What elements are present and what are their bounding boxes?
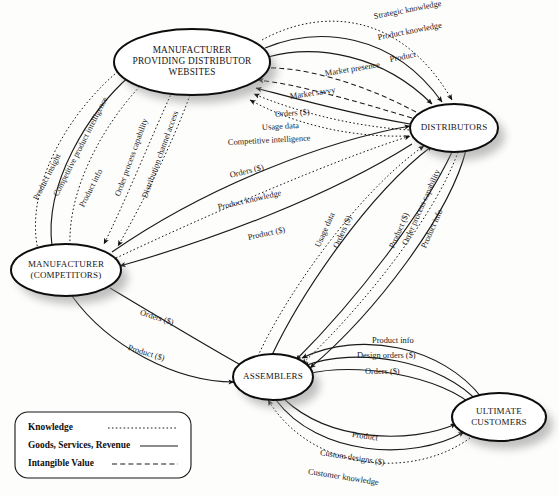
edge-label: Product ($)	[247, 225, 286, 242]
node-label-line: ASSEMBLERS	[243, 371, 303, 381]
edge-label: Product info	[77, 168, 104, 209]
node-label-line: PROVIDING DISTRIBUTOR	[133, 56, 253, 66]
edge-usage-data-assemblers	[258, 146, 424, 356]
node-label-line: CUSTOMERS	[471, 417, 527, 427]
edge-order-process-capability-mpdw	[104, 92, 172, 244]
legend-label-knowledge: Knowledge	[28, 422, 73, 432]
edge-label: Product ($)	[127, 343, 166, 363]
edge-custom-designs	[276, 400, 464, 450]
edge-product-assemblers-customers	[284, 399, 456, 436]
edge-product-distributors-competitors	[120, 144, 412, 266]
legend: Knowledge Goods, Services, Revenue Intan…	[15, 412, 191, 478]
edge-label: Customer knowledge	[307, 467, 379, 487]
edge-label: Product knowledge	[217, 188, 283, 211]
edge-label: Market presence	[324, 60, 381, 78]
edge-label: Order process capability	[400, 167, 442, 246]
node-customers[interactable]: ULTIMATECUSTOMERS	[452, 393, 553, 449]
edge-label: Product knowledge	[377, 21, 443, 42]
edge-product-info-competitors	[70, 80, 146, 245]
edge-label: Product info	[372, 336, 414, 345]
legend-label-goods: Goods, Services, Revenue	[28, 440, 130, 450]
edge-competitive-product-intelligence	[51, 74, 132, 246]
edge-label: Market savvy	[289, 85, 336, 100]
edge-product-competitors-assemblers	[72, 296, 234, 382]
edge-label: Design orders ($)	[357, 351, 416, 360]
edge-design-orders	[304, 357, 480, 404]
node-label-line: WEBSITES	[168, 67, 215, 77]
node-label-line: MANUFACTURER	[28, 259, 104, 269]
edge-label: Orders ($)	[365, 367, 400, 376]
edge-label: Orders ($)	[139, 308, 175, 327]
node-label-line: MANUFACTURER	[153, 45, 232, 55]
edge-label: Orders ($)	[331, 214, 353, 250]
edge-label: Competitive intelligence	[228, 134, 311, 147]
legend-label-intangible: Intangible Value	[28, 458, 94, 468]
edge-label: Product	[351, 430, 379, 443]
node-label-line: DISTRIBUTORS	[421, 122, 488, 132]
node-assemblers[interactable]: ASSEMBLERS	[233, 354, 320, 408]
edge-label: Product info	[419, 208, 444, 250]
edge-label: Custom designs ($)	[319, 448, 385, 467]
edge-label: Usage data	[262, 121, 300, 132]
edge-label: Orders ($)	[275, 108, 310, 119]
diagram-page: Strategic knowledgeProduct knowledgeProd…	[0, 0, 559, 496]
edge-orders-competitors-assemblers	[110, 288, 246, 368]
node-competitors[interactable]: MANUFACTURER(COMPETITORS)	[11, 244, 128, 304]
diagram-canvas: Strategic knowledgeProduct knowledgeProd…	[0, 0, 559, 496]
node-label-line: (COMPETITORS)	[31, 270, 102, 280]
edge-label: Strategic knowledge	[373, 0, 442, 21]
node-mpdw[interactable]: MANUFACTURERPROVIDING DISTRIBUTORWEBSITE…	[114, 29, 277, 103]
node-label-line: ULTIMATE	[476, 406, 522, 416]
